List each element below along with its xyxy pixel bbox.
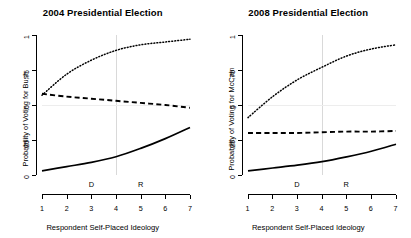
y-axis-title-2008: Probability of Voting for McCain xyxy=(226,44,235,194)
y-axis-tick-label: .75 xyxy=(24,70,31,80)
x-axis-tick xyxy=(297,195,298,199)
y-axis-title-wrap-2004: Probability of Voting for Bush xyxy=(10,0,24,238)
y-axis-tick xyxy=(32,175,36,176)
curve-group xyxy=(248,35,396,175)
y-axis-tick xyxy=(238,70,242,71)
y-axis-tick-label: .25 xyxy=(229,140,236,150)
y-axis-line xyxy=(242,35,243,175)
y-axis-tick-label: .25 xyxy=(24,140,31,150)
y-axis-tick-label: .5 xyxy=(24,105,31,111)
x-axis-tick xyxy=(165,195,166,199)
party-marker-r: R xyxy=(343,180,348,189)
panel-title-2008: 2008 Presidential Election xyxy=(206,7,411,18)
x-axis-tick xyxy=(190,195,191,199)
party-marker-d: D xyxy=(89,180,94,189)
x-axis-title-2008: Respondent Self-Placed Ideology xyxy=(206,223,411,232)
y-axis-tick xyxy=(32,35,36,36)
x-axis-tick-label: 5 xyxy=(344,204,348,213)
y-axis-tick xyxy=(32,140,36,141)
x-axis-tick-label: 4 xyxy=(320,204,324,213)
curve-solid-lower xyxy=(42,127,190,170)
curve-solid-lower xyxy=(248,144,396,171)
x-axis-tick-label: 5 xyxy=(139,204,143,213)
x-axis-tick xyxy=(346,195,347,199)
x-axis-tick-label: 6 xyxy=(369,204,373,213)
x-axis-tick xyxy=(91,195,92,199)
x-axis-tick xyxy=(248,195,249,199)
y-axis-tick xyxy=(238,175,242,176)
x-axis-tick xyxy=(67,195,68,199)
x-axis-tick-label: 4 xyxy=(114,204,118,213)
y-axis-tick-label: 0 xyxy=(229,175,236,179)
x-axis-tick-label: 1 xyxy=(40,204,44,213)
x-axis-tick-label: 7 xyxy=(394,204,398,213)
curve-group xyxy=(42,35,190,175)
x-axis-tick xyxy=(371,195,372,199)
y-axis-tick xyxy=(32,105,36,106)
y-axis-tick xyxy=(238,105,242,106)
plot-area-2008: 0.25.5.7511234567DR xyxy=(248,35,396,175)
plot-area-2004: 0.25.5.7511234567DR xyxy=(42,35,190,175)
y-axis-tick xyxy=(238,35,242,36)
curve-dashed-middle xyxy=(248,131,396,133)
panel-2008: 2008 Presidential Election Probability o… xyxy=(206,0,411,238)
y-axis-tick-label: 0 xyxy=(24,175,31,179)
party-marker-d: D xyxy=(294,180,299,189)
x-axis-tick-label: 2 xyxy=(270,204,274,213)
y-axis-tick xyxy=(32,70,36,71)
x-axis-tick-label: 3 xyxy=(89,204,93,213)
figure-two-panel-election-plots: 2004 Presidential Election Probability o… xyxy=(0,0,411,238)
x-axis-tick xyxy=(322,195,323,199)
y-axis-line xyxy=(36,35,37,175)
x-axis-tick-label: 6 xyxy=(163,204,167,213)
y-axis-tick-label: .75 xyxy=(229,70,236,80)
y-axis-tick xyxy=(238,140,242,141)
x-axis-title-2004: Respondent Self-Placed Ideology xyxy=(0,223,206,232)
y-axis-tick-label: 1 xyxy=(229,35,236,39)
y-axis-title-2004: Probability of Voting for Bush xyxy=(21,44,30,194)
party-marker-r: R xyxy=(138,180,143,189)
x-axis-tick xyxy=(116,195,117,199)
y-axis-title-wrap-2008: Probability of Voting for McCain xyxy=(216,0,230,238)
x-axis-tick xyxy=(396,195,397,199)
x-axis-tick xyxy=(141,195,142,199)
y-axis-tick-label: .5 xyxy=(229,105,236,111)
x-axis-tick-label: 1 xyxy=(246,204,250,213)
curve-dashed-middle xyxy=(42,94,190,108)
panel-title-2004: 2004 Presidential Election xyxy=(0,7,206,18)
x-axis-tick-label: 3 xyxy=(295,204,299,213)
x-axis-tick-label: 7 xyxy=(188,204,192,213)
x-axis-tick xyxy=(42,195,43,199)
curve-dotted-upper xyxy=(248,45,396,118)
x-axis-tick xyxy=(272,195,273,199)
x-axis-tick-label: 2 xyxy=(65,204,69,213)
y-axis-tick-label: 1 xyxy=(24,35,31,39)
curve-dotted-upper xyxy=(42,39,190,95)
panel-2004: 2004 Presidential Election Probability o… xyxy=(0,0,206,238)
